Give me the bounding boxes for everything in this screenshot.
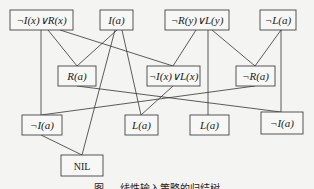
- edge-line: [41, 135, 82, 155]
- node-label: ¬R(a): [242, 70, 269, 83]
- clause-node: ¬I(x)∨R(x): [10, 10, 73, 30]
- node-label: ¬L(a): [265, 14, 292, 27]
- node-label: NIL: [74, 161, 91, 172]
- resolution-tree-diagram: ¬I(x)∨R(x)I(a)¬R(y)∨L(y)¬L(a)R(a)¬I(x)∨L…: [0, 0, 314, 189]
- node-label: R(a): [66, 70, 87, 83]
- clause-node: L(a): [190, 115, 229, 135]
- clause-node: ¬I(a): [261, 112, 303, 134]
- edge-line: [122, 30, 141, 115]
- node-label: L(a): [199, 119, 219, 132]
- clause-node: L(a): [125, 115, 158, 135]
- edge-line: [77, 30, 117, 66]
- edges: [41, 30, 281, 155]
- node-label: L(a): [131, 119, 151, 132]
- node-label: ¬R(y)∨L(y): [171, 14, 224, 27]
- node-label: ¬I(x)∨R(x): [16, 14, 67, 27]
- clause-node: I(a): [100, 10, 133, 30]
- edge-line: [41, 86, 255, 115]
- edge-line: [255, 30, 281, 66]
- node-label: ¬I(x)∨L(x): [149, 70, 199, 83]
- clause-node: ¬R(y)∨L(y): [165, 10, 229, 30]
- edge-line: [82, 30, 115, 155]
- node-label: ¬I(a): [30, 119, 54, 132]
- edge-line: [60, 30, 173, 66]
- figure-caption: 图 — 线性输入策略的归结树: [0, 180, 314, 189]
- nil-node: NIL: [61, 155, 103, 176]
- clause-node: R(a): [58, 66, 96, 86]
- node-label: I(a): [107, 14, 125, 27]
- clause-node: ¬I(x)∨L(x): [147, 66, 200, 86]
- clause-node: ¬L(a): [260, 10, 296, 30]
- edge-line: [212, 30, 255, 66]
- edge-line: [48, 30, 77, 66]
- edge-line: [77, 86, 281, 112]
- clause-node: ¬I(a): [22, 115, 62, 135]
- node-label: ¬I(a): [270, 117, 294, 130]
- nodes: ¬I(x)∨R(x)I(a)¬R(y)∨L(y)¬L(a)R(a)¬I(x)∨L…: [10, 10, 303, 176]
- edge-line: [173, 30, 196, 66]
- clause-node: ¬R(a): [236, 66, 275, 86]
